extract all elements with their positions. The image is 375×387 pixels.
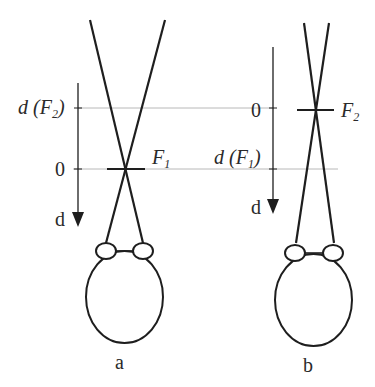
panel-a: d (F2) 0 d F1 a: [18, 20, 170, 373]
zero-label-a: 0: [55, 158, 65, 180]
axis-label-b: d: [251, 196, 261, 218]
axis-label-a: d: [55, 208, 65, 230]
head-outline-a: [86, 251, 163, 343]
axis-arrow-icon: [267, 199, 279, 214]
caption-b: b: [303, 354, 313, 376]
eye-right-a: [133, 243, 153, 259]
axis-arrow-icon: [72, 212, 84, 227]
eye-right-b: [323, 245, 343, 261]
eye-left-b: [285, 245, 305, 261]
focus-label-b: F2: [340, 99, 359, 124]
focus-diagram: d (F2) 0 d F1 a 0 d (F1) d F2: [0, 0, 375, 387]
panel-b: 0 d (F1) d F2 b: [214, 23, 359, 376]
caption-a: a: [115, 351, 124, 373]
ray-left-b: [304, 23, 334, 243]
zero-label-b: 0: [251, 99, 261, 121]
distance-label-b: d (F1): [214, 146, 261, 171]
head-outline-b: [275, 254, 352, 346]
ray-right-b: [296, 23, 329, 243]
focus-label-a: F1: [151, 146, 170, 171]
distance-label-a: d (F2): [18, 96, 65, 121]
eye-left-a: [96, 243, 116, 259]
